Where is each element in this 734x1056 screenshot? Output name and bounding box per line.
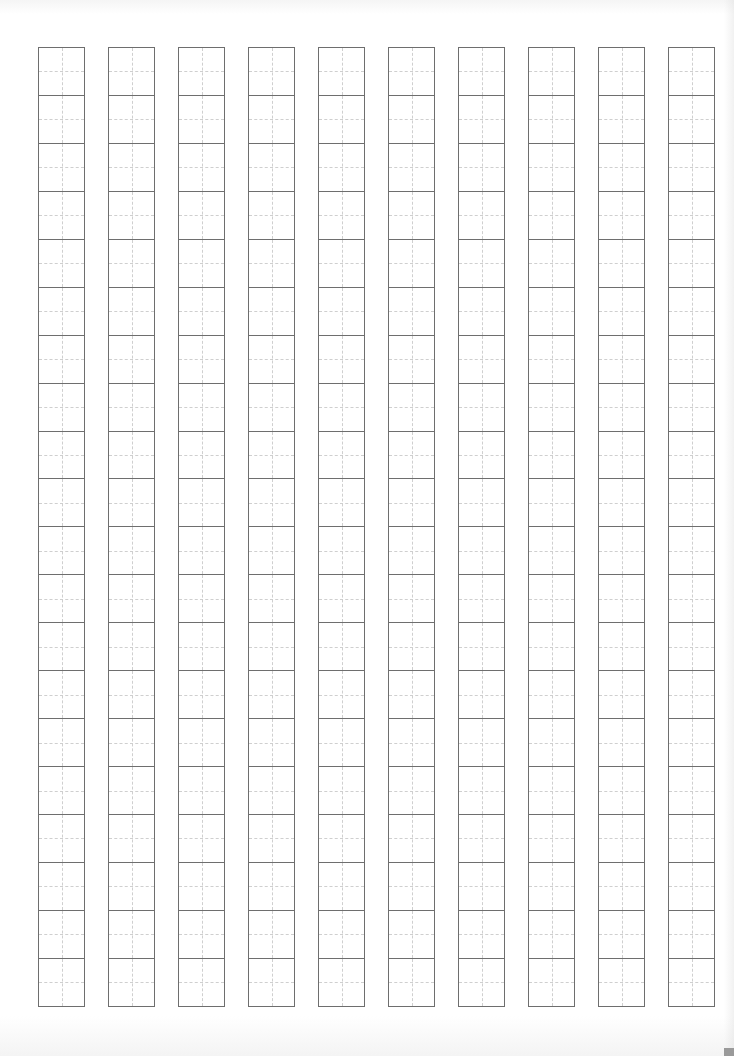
grid-cell xyxy=(599,479,644,527)
grid-cell xyxy=(249,336,294,384)
grid-cell xyxy=(529,336,574,384)
grid-cell xyxy=(459,479,504,527)
grid-cell xyxy=(109,527,154,575)
grid-cell xyxy=(109,815,154,863)
grid-cell xyxy=(179,911,224,959)
grid-cell xyxy=(599,384,644,432)
grid-cell xyxy=(109,144,154,192)
grid-cell xyxy=(459,959,504,1007)
grid-cell xyxy=(389,815,434,863)
grid-cell xyxy=(109,863,154,911)
grid-cell xyxy=(599,144,644,192)
grid-cell xyxy=(529,192,574,240)
grid-cell xyxy=(599,719,644,767)
grid-column xyxy=(38,47,85,1007)
grid-cell xyxy=(459,911,504,959)
grid-cell xyxy=(599,336,644,384)
grid-cell xyxy=(319,959,364,1007)
grid-cell xyxy=(389,623,434,671)
grid-cell xyxy=(319,240,364,288)
grid-cell xyxy=(669,384,714,432)
grid-cell xyxy=(529,671,574,719)
grid-cell xyxy=(179,432,224,480)
grid-cell xyxy=(669,336,714,384)
grid-cell xyxy=(39,575,84,623)
grid-cell xyxy=(39,336,84,384)
grid-cell xyxy=(529,479,574,527)
grid-column xyxy=(528,47,575,1007)
grid-cell xyxy=(319,863,364,911)
grid-cell xyxy=(599,815,644,863)
grid-cell xyxy=(179,479,224,527)
grid-cell xyxy=(319,144,364,192)
grid-cell xyxy=(669,767,714,815)
grid-cell xyxy=(389,288,434,336)
grid-cell xyxy=(599,527,644,575)
grid-cell xyxy=(389,527,434,575)
grid-cell xyxy=(529,767,574,815)
grid-cell xyxy=(179,527,224,575)
grid-cell xyxy=(179,863,224,911)
grid-cell xyxy=(179,48,224,96)
grid-cell xyxy=(669,288,714,336)
top-edge-shading xyxy=(0,0,734,14)
grid-cell xyxy=(459,719,504,767)
grid-cell xyxy=(39,96,84,144)
grid-cell xyxy=(459,432,504,480)
grid-cell xyxy=(249,48,294,96)
grid-cell xyxy=(39,671,84,719)
grid-cell xyxy=(39,959,84,1007)
grid-cell xyxy=(249,575,294,623)
grid-cell xyxy=(319,719,364,767)
grid-cell xyxy=(529,432,574,480)
grid-cell xyxy=(389,959,434,1007)
grid-cell xyxy=(39,48,84,96)
grid-cell xyxy=(529,384,574,432)
grid-cell xyxy=(319,384,364,432)
grid-cell xyxy=(39,863,84,911)
grid-cell xyxy=(389,384,434,432)
grid-cell xyxy=(249,288,294,336)
grid-cell xyxy=(109,192,154,240)
grid-cell xyxy=(389,144,434,192)
grid-cell xyxy=(529,527,574,575)
grid-cell xyxy=(179,384,224,432)
grid-cell xyxy=(389,192,434,240)
grid-cell xyxy=(389,479,434,527)
grid-cell xyxy=(319,671,364,719)
grid-cell xyxy=(249,527,294,575)
grid-cell xyxy=(459,240,504,288)
grid-cell xyxy=(39,719,84,767)
grid-cell xyxy=(319,48,364,96)
grid-cell xyxy=(389,48,434,96)
grid-cell xyxy=(179,336,224,384)
grid-cell xyxy=(599,48,644,96)
grid-cell xyxy=(529,144,574,192)
grid-cell xyxy=(249,479,294,527)
grid-cell xyxy=(599,432,644,480)
grid-cell xyxy=(529,815,574,863)
grid-cell xyxy=(669,863,714,911)
grid-cell xyxy=(529,288,574,336)
grid-cell xyxy=(669,911,714,959)
grid-cell xyxy=(529,863,574,911)
grid-cell xyxy=(109,384,154,432)
grid-cell xyxy=(599,911,644,959)
grid-cell xyxy=(249,959,294,1007)
grid-cell xyxy=(459,671,504,719)
grid-cell xyxy=(249,815,294,863)
grid-column xyxy=(318,47,365,1007)
grid-cell xyxy=(39,144,84,192)
grid-cell xyxy=(459,575,504,623)
grid-cell xyxy=(599,767,644,815)
grid-cell xyxy=(389,336,434,384)
grid-cell xyxy=(179,959,224,1007)
grid-cell xyxy=(459,288,504,336)
grid-cell xyxy=(319,767,364,815)
grid-cell xyxy=(179,623,224,671)
grid-cell xyxy=(109,671,154,719)
grid-cell xyxy=(669,719,714,767)
grid-cell xyxy=(179,192,224,240)
grid-cell xyxy=(389,719,434,767)
grid-cell xyxy=(109,48,154,96)
